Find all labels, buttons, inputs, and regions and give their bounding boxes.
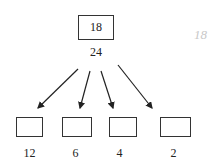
child-box-4 (160, 117, 191, 137)
arrow-to-child-3 (101, 71, 113, 108)
arrow-to-child-4 (118, 65, 152, 108)
child-label-4: 2 (160, 147, 187, 159)
child-box-3 (109, 117, 137, 137)
root-box: 18 (78, 15, 114, 40)
root-label: 24 (80, 46, 112, 58)
child-label-2: 6 (62, 147, 89, 159)
child-box-2 (62, 117, 92, 137)
child-box-1 (16, 117, 43, 137)
handwritten-annotation: 18 (194, 27, 207, 43)
arrow-to-child-1 (38, 69, 78, 108)
child-label-1: 12 (16, 147, 43, 159)
root-box-text: 18 (90, 20, 102, 35)
child-label-3: 4 (106, 147, 133, 159)
arrow-to-child-2 (80, 71, 90, 108)
